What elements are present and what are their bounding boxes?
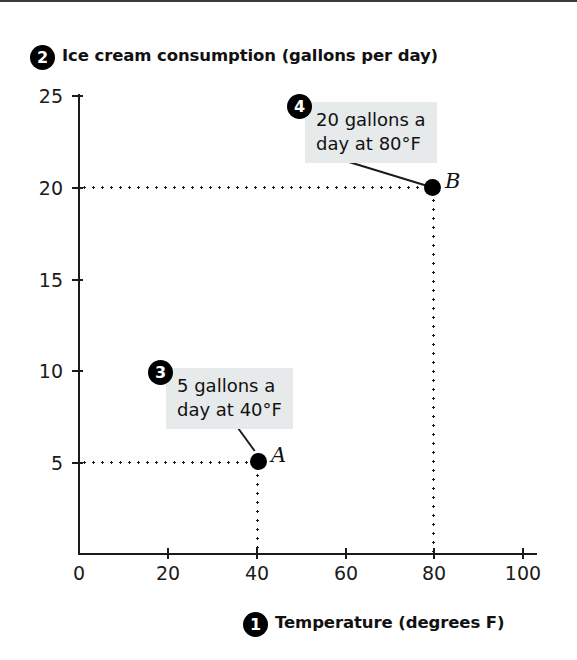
x-tick-mark-60 — [345, 548, 347, 559]
annotation-callout-3-line1: 5 gallons a — [177, 375, 275, 396]
leader-line-b — [349, 161, 435, 189]
x-tick-label-100: 100 — [493, 562, 553, 584]
callout-badge-2: 2 — [30, 45, 55, 70]
x-axis-title: Temperature (degrees F) — [275, 613, 504, 632]
data-point-label-a: A — [271, 443, 286, 467]
x-tick-label-20: 20 — [138, 562, 198, 584]
y-axis-line — [78, 94, 80, 555]
x-tick-label-0: 0 — [49, 562, 109, 584]
y-tick-mark-10 — [72, 370, 83, 372]
x-axis-line — [78, 553, 537, 555]
y-tick-label-20: 20 — [17, 177, 63, 199]
y-tick-label-15: 15 — [17, 269, 63, 291]
data-point-b[interactable] — [424, 179, 441, 196]
annotation-callout-3: 5 gallons a day at 40°F — [166, 368, 293, 429]
y-tick-label-10: 10 — [17, 360, 63, 382]
callout-badge-3: 3 — [148, 360, 173, 385]
annotation-callout-4-line1: 20 gallons a — [316, 109, 426, 130]
guide-line-vertical-a — [256, 462, 259, 554]
guide-line-horizontal-b — [80, 186, 430, 189]
y-tick-label-5: 5 — [17, 452, 63, 474]
x-tick-mark-100 — [522, 548, 524, 559]
plot-area: 25 20 15 10 5 0 20 40 60 80 100 A B — [0, 2, 577, 660]
annotation-callout-3-line2: day at 40°F — [177, 398, 282, 422]
annotation-callout-4-line2: day at 80°F — [316, 132, 426, 156]
annotation-callout-4: 20 gallons a day at 80°F — [305, 102, 437, 163]
callout-badge-4: 4 — [287, 94, 312, 119]
y-tick-mark-25 — [72, 95, 83, 97]
guide-line-horizontal-a — [80, 461, 260, 464]
guide-line-vertical-b — [432, 187, 435, 554]
data-point-label-b: B — [445, 169, 460, 193]
x-tick-mark-20 — [167, 548, 169, 559]
y-tick-mark-15 — [72, 279, 83, 281]
x-tick-label-40: 40 — [227, 562, 287, 584]
chart-figure: 2 Ice cream consumption (gallons per day… — [0, 0, 577, 660]
y-tick-label-25: 25 — [17, 85, 63, 107]
callout-badge-1: 1 — [243, 612, 268, 637]
data-point-a[interactable] — [250, 453, 267, 470]
x-tick-label-80: 80 — [404, 562, 464, 584]
x-tick-label-60: 60 — [316, 562, 376, 584]
